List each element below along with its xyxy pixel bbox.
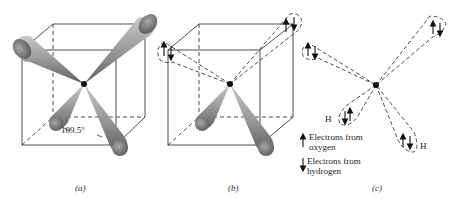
oxygen-nucleus-c [373,82,379,88]
sp3-orbital-diagram [0,0,459,202]
legend-hydrogen-line1: Electrons from [307,156,361,166]
oxygen-nucleus-b [227,81,233,87]
caption-c: (c) [372,183,382,193]
angle-label: 109.5° [61,125,85,135]
oxygen-nucleus-a [81,81,87,87]
hydrogen-label-left: H [325,114,332,124]
panel-b [158,14,302,156]
hydrogen-label-right: H [420,141,427,151]
legend-oxygen-line2: oxygen [309,142,363,152]
legend-hydrogen-line2: hydrogen [307,166,361,176]
legend-oxygen: Electrons from oxygen [309,132,363,152]
caption-a: (a) [75,183,86,193]
panel-a [9,10,161,156]
legend-oxygen-line1: Electrons from [309,132,363,142]
caption-b: (b) [228,183,239,193]
legend-hydrogen: Electrons from hydrogen [307,156,361,176]
